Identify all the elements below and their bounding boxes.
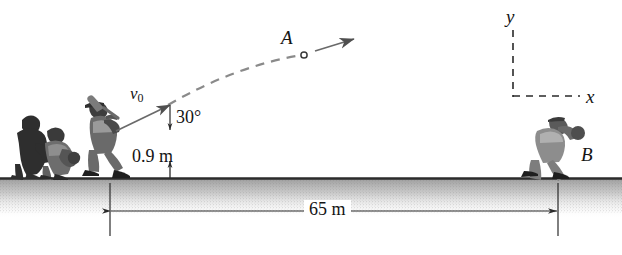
launch-height-label: 0.9 m xyxy=(132,147,173,165)
batter-figure xyxy=(82,95,130,178)
initial-velocity-label: v0 xyxy=(130,85,144,104)
fielder-figure xyxy=(521,117,585,181)
trajectory-continuation-arrow-icon xyxy=(315,39,354,51)
initial-velocity-subscript: 0 xyxy=(138,91,144,105)
coordinate-axes-icon xyxy=(513,30,580,97)
point-a-label: A xyxy=(281,28,293,47)
initial-velocity-symbol: v xyxy=(130,84,138,103)
x-axis-label: x xyxy=(586,87,594,106)
y-axis-label: y xyxy=(506,7,514,26)
trajectory-path-icon xyxy=(168,55,302,105)
horizontal-distance-label: 65 m xyxy=(304,200,351,218)
point-b-label: B xyxy=(581,145,593,164)
velocity-arrow-icon xyxy=(116,105,170,131)
launch-angle-label: 30° xyxy=(176,108,201,126)
projectile-figure: A B y x v0 30° 0.9 m 65 m xyxy=(0,0,622,255)
ball-icon xyxy=(301,52,307,58)
